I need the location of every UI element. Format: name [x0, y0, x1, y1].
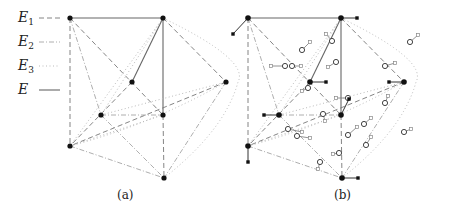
hollow-terminal: [327, 66, 330, 69]
edge-E2: [164, 82, 226, 178]
vertex: [98, 112, 103, 117]
hollow-vertex: [333, 59, 338, 64]
hollow-vertex: [336, 150, 341, 155]
edge-E3: [70, 115, 163, 146]
hollow-vertex: [361, 121, 366, 126]
hollow-terminal: [309, 41, 312, 44]
vertex: [67, 143, 72, 148]
edge-E1: [341, 115, 342, 178]
edge-E2: [342, 82, 404, 178]
hollow-terminal: [270, 65, 273, 68]
hollow-vertex: [299, 47, 304, 52]
edge-E3: [279, 18, 341, 115]
hollow-vertex: [320, 111, 325, 116]
filled-terminal: [356, 176, 359, 179]
edge-E2: [248, 18, 279, 115]
hollow-terminal: [370, 117, 373, 120]
vertex: [67, 15, 72, 20]
vertex: [339, 175, 345, 181]
graph-panel-b: [231, 15, 419, 181]
hollow-terminal: [356, 126, 359, 129]
filled-terminal: [387, 80, 390, 83]
edge-E2: [70, 146, 164, 178]
filled-terminal: [246, 160, 249, 163]
edge-E1: [70, 18, 163, 115]
filled-terminal: [324, 80, 327, 83]
vertex: [276, 112, 282, 118]
edge-E2: [279, 115, 342, 178]
hollow-vertex: [329, 38, 334, 43]
hollow-vertex: [382, 63, 387, 68]
hollow-vertex: [401, 129, 406, 134]
filled-terminal: [347, 97, 350, 100]
legend-label: E1: [17, 9, 34, 27]
hollow-terminal: [325, 33, 328, 36]
hollow-vertex: [382, 100, 387, 105]
diagram-canvas: E1E2E3E (a) (b): [0, 0, 449, 212]
edge-E: [132, 18, 163, 82]
hollow-vertex: [345, 132, 350, 137]
vertex: [160, 112, 165, 117]
filled-terminal: [355, 16, 358, 19]
hollow-terminal: [335, 97, 338, 100]
hollow-terminal: [317, 168, 320, 171]
filled-terminal: [231, 32, 234, 35]
vertex: [401, 79, 407, 85]
hollow-vertex: [289, 63, 294, 68]
hollow-terminal: [332, 153, 335, 156]
edge-E3: [70, 18, 163, 146]
curved-edge: [341, 18, 417, 178]
legend-label: E: [17, 81, 28, 97]
hollow-terminal: [387, 95, 390, 98]
edge-E3: [101, 18, 163, 115]
stub-edge: [233, 18, 248, 34]
edge-E2: [248, 146, 342, 178]
vertex: [245, 15, 251, 21]
vertex: [338, 15, 344, 21]
edge-E1: [341, 18, 404, 82]
legend-label: E2: [17, 33, 34, 51]
edge-style-legend: E1E2E3E: [17, 9, 60, 97]
hollow-terminal: [301, 90, 304, 93]
hollow-terminal: [370, 136, 373, 139]
hollow-vertex: [282, 63, 287, 68]
hollow-terminal: [309, 137, 312, 140]
hollow-terminal: [300, 65, 303, 68]
hollow-vertex: [294, 133, 299, 138]
vertex: [245, 143, 251, 149]
curved-edge: [163, 18, 239, 178]
legend-label: E3: [17, 57, 34, 75]
hollow-terminal: [417, 34, 420, 37]
caption-a: (a): [117, 188, 134, 202]
vertex: [223, 79, 228, 84]
vertex: [338, 112, 344, 118]
hollow-vertex: [305, 85, 310, 90]
graph-panel-a: [67, 15, 239, 180]
vertex: [160, 15, 165, 20]
hollow-terminal: [301, 131, 304, 134]
vertex: [129, 79, 134, 84]
edge-E2: [101, 115, 164, 178]
caption-b: (b): [334, 188, 351, 202]
edge-E1: [163, 18, 226, 82]
vertex: [307, 79, 313, 85]
edge-E2: [70, 18, 101, 115]
hollow-vertex: [317, 159, 322, 164]
edge-E: [310, 18, 341, 82]
vertex: [161, 175, 166, 180]
hollow-terminal: [410, 128, 413, 131]
hollow-vertex: [407, 39, 412, 44]
hollow-vertex: [363, 142, 368, 147]
edge-E1: [163, 115, 164, 178]
hollow-terminal: [394, 62, 397, 65]
hollow-terminal: [324, 120, 327, 123]
hollow-vertex: [285, 126, 290, 131]
filled-terminal: [262, 113, 265, 116]
